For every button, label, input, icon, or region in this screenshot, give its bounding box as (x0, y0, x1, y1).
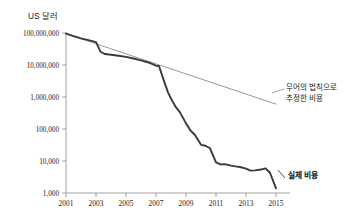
y-tick-label: 1,000 (43, 190, 60, 198)
y-axis-tick-labels: 100,000,000 10,000,000 1,000,000 100,000… (23, 30, 59, 198)
chart-container: US 달러 100,000,000 10,000,000 1,000,000 1… (0, 0, 352, 219)
moore-label-line1: 무어의 법칙으로 (286, 82, 337, 92)
actual-cost-line (66, 34, 276, 189)
moore-label-line2: 추정한 비용 (286, 93, 323, 103)
x-tick-label: 2011 (209, 199, 224, 208)
y-tick-label: 10,000,000 (27, 62, 60, 70)
moore-label-leader (272, 89, 284, 93)
x-tick-label: 2003 (89, 199, 104, 208)
y-tick-label: 100,000 (36, 126, 60, 134)
y-tick-label: 10,000 (39, 158, 59, 166)
y-axis-ticks (62, 33, 66, 193)
x-tick-label: 2005 (119, 199, 134, 208)
x-tick-label: 2001 (59, 199, 74, 208)
x-tick-label: 2013 (239, 199, 254, 208)
x-tick-label: 2007 (149, 199, 164, 208)
genome-sequencing-cost-chart: US 달러 100,000,000 10,000,000 1,000,000 1… (0, 0, 352, 219)
x-tick-label: 2015 (269, 199, 284, 208)
y-tick-label: 1,000,000 (30, 94, 59, 102)
actual-cost-label: 실제 비용 (288, 170, 318, 180)
x-axis-ticks (66, 193, 276, 197)
x-axis-tick-labels: 2001 2003 2005 2007 2009 2011 2013 2015 (59, 199, 284, 208)
y-tick-label: 100,000,000 (23, 30, 59, 38)
actual-label-leader (278, 170, 285, 178)
y-axis-title: US 달러 (28, 11, 58, 21)
x-tick-label: 2009 (179, 199, 194, 208)
